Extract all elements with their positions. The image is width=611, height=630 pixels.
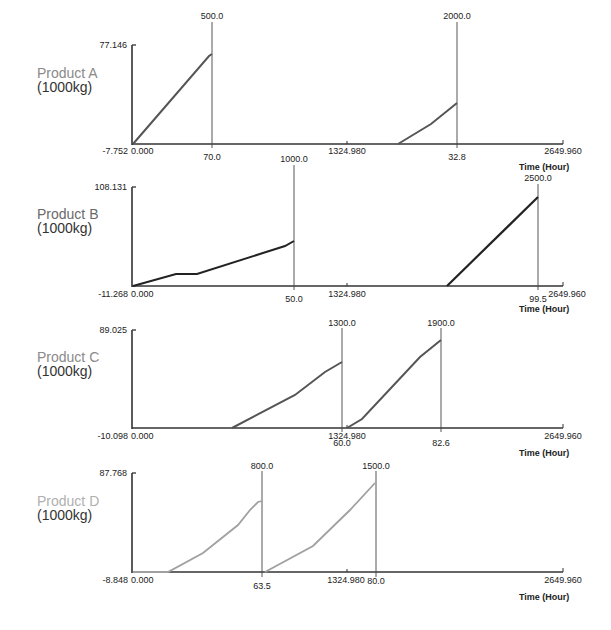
series-line [265,483,375,572]
x-max-label: 2649.960 [548,289,586,299]
x-start-label: 0.000 [131,575,154,585]
series-line [133,501,262,572]
unit-label: (1000kg) [37,79,92,95]
event-time-label: 1300.0 [328,318,356,328]
panel-product-b: Time (Hour) Product B (1000kg) 108.131 -… [37,154,586,314]
x-start-label: 0.000 [131,289,154,299]
event-value-label: 60.0 [333,438,351,448]
series-line [133,241,294,286]
x-mid-label: 1324.980 [327,575,365,585]
event-time-label: 2500.0 [524,173,552,183]
x-mid-label: 1324.980 [328,289,366,299]
event-time-label: 1500.0 [362,461,390,471]
x-max-label: 2649.960 [544,146,582,156]
x-start-label: 0.000 [131,146,154,156]
y-max-label: 89.025 [99,325,127,335]
unit-label: (1000kg) [37,363,92,379]
panel-product-d: Product D (1000kg) 87.768 -8.848 0.000 1… [37,461,582,602]
event-value-label: 80.0 [367,576,385,586]
event-time-label: 500.0 [201,11,224,21]
x-axis-title: Time (Hour) [519,304,569,314]
x-max-label: 2649.960 [544,575,582,585]
x-mid-label: 1324.980 [328,146,366,156]
panel-product-c: Product C (1000kg) 89.025 -10.098 0.000 … [37,318,582,458]
unit-label: (1000kg) [37,220,92,236]
y-min-label: -10.098 [97,431,128,441]
event-value-label: 70.0 [203,152,221,162]
panel-product-a: Product A (1000kg) 77.146 -7.752 0.000 1… [37,11,582,162]
unit-label: (1000kg) [37,507,92,523]
series-line [347,340,441,428]
y-max-label: 77.146 [99,40,127,50]
x-start-label: 0.000 [131,431,154,441]
event-time-label: 1900.0 [427,318,455,328]
event-value-label: 82.6 [432,438,450,448]
y-max-label: 108.131 [94,182,127,192]
event-time-label: 2000.0 [443,11,471,21]
y-min-label: -7.752 [102,146,128,156]
y-min-label: -11.268 [98,289,128,299]
event-value-label: 99.5 [529,294,547,304]
event-time-label: 1000.0 [280,154,308,164]
series-line [232,362,342,428]
event-time-label: 800.0 [251,461,274,471]
series-line [447,197,538,286]
y-max-label: 87.768 [99,468,127,478]
y-min-label: -8.848 [102,575,128,585]
x-axis-title: Time (Hour) [519,448,569,458]
inventory-charts: Product A (1000kg) 77.146 -7.752 0.000 1… [0,0,611,630]
event-value-label: 50.0 [285,294,303,304]
series-line [398,103,457,144]
event-value-label: 32.8 [448,152,466,162]
x-axis-title: Time (Hour) [519,162,569,172]
x-axis-title: Time (Hour) [519,592,569,602]
series-line [133,54,212,144]
event-value-label: 63.5 [253,581,271,591]
x-max-label: 2649.960 [544,431,582,441]
